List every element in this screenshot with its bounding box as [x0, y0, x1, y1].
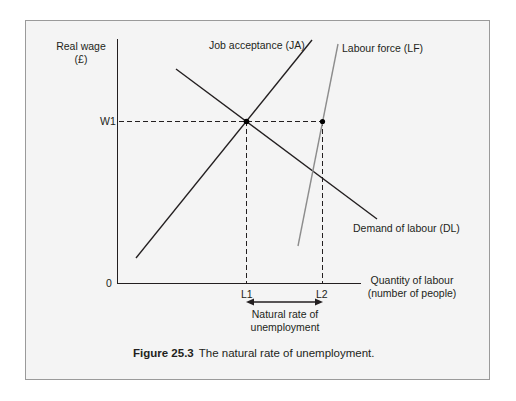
x-axis-label-line1: Quantity of labour [362, 274, 462, 287]
labour-force-label: Labour force (LF) [342, 42, 423, 55]
job-acceptance-line [136, 40, 312, 258]
demand-of-labour-line [176, 69, 377, 219]
x-axis-label: Quantity of labour (number of people) [362, 274, 462, 300]
equilibrium-point [244, 119, 250, 125]
figure-caption-text: The natural rate of unemployment. [199, 347, 375, 359]
natural-rate-label-line2: unemployment [242, 321, 328, 334]
y-axis-label: Real wage (£) [56, 40, 106, 66]
lf-w1-point [320, 119, 325, 124]
origin-label: 0 [106, 277, 112, 290]
y-axis-label-line1: Real wage [56, 40, 106, 53]
l2-tick-label: L2 [316, 288, 328, 301]
figure-caption: Figure 25.3The natural rate of unemploym… [133, 347, 375, 359]
l1-tick-label: L1 [241, 288, 253, 301]
w1-tick-label: W1 [100, 115, 116, 128]
job-acceptance-label: Job acceptance (JA) [209, 39, 305, 52]
y-axis-label-line2: (£) [56, 53, 106, 66]
figure-number: Figure 25.3 [133, 347, 194, 359]
natural-rate-label-line1: Natural rate of [242, 308, 328, 321]
labour-force-line [298, 44, 338, 246]
demand-of-labour-label: Demand of labour (DL) [353, 222, 460, 235]
x-axis-label-line2: (number of people) [362, 287, 462, 300]
natural-rate-label: Natural rate of unemployment [242, 308, 328, 334]
